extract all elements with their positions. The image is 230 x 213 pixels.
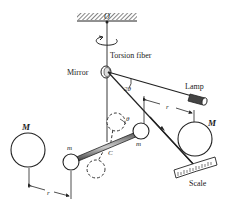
center-label: C [108, 149, 113, 157]
angle-reflect-label: 2θ [124, 85, 132, 93]
balance-rod [74, 132, 138, 162]
small-mass-left [63, 154, 79, 170]
pivot-label: O [104, 12, 110, 21]
small-mass-right-label: m [136, 140, 141, 148]
scale-label: Scale [189, 179, 207, 188]
lamp-icon [188, 94, 208, 106]
big-mass-right [178, 122, 212, 156]
distance-lower [29, 168, 71, 199]
distance-lower-label: r [47, 189, 50, 197]
distance-upper-label: r [166, 103, 169, 111]
big-mass-right-label: M [207, 118, 217, 128]
big-mass-left [11, 133, 45, 167]
small-mass-left-label: m [67, 144, 72, 152]
fiber-label: Torsion fiber [110, 51, 152, 60]
incident-ray [108, 72, 192, 96]
big-mass-left-label: M [21, 122, 31, 132]
cavendish-diagram: O Torsion fiber Mirror Lamp 2θ r M M θ m… [0, 0, 230, 213]
small-mass-right [133, 123, 149, 139]
lamp-label: Lamp [185, 82, 204, 91]
scale-icon [174, 157, 217, 178]
mirror-label: Mirror [67, 68, 89, 77]
angle-rot-label: θ [126, 115, 130, 123]
